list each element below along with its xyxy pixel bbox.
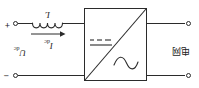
dc-terminal-top-circle bbox=[13, 73, 18, 78]
inductor-label: L bbox=[45, 10, 50, 19]
current-symbol: I bbox=[50, 41, 53, 51]
voltage-label: Udc bbox=[14, 46, 26, 57]
current-subscript: dc bbox=[44, 39, 50, 45]
grid-terminal-top-circle bbox=[186, 73, 191, 78]
grid-label: 电网 bbox=[172, 46, 190, 55]
voltage-symbol: U bbox=[20, 48, 27, 58]
voltage-subscript: dc bbox=[14, 46, 20, 52]
grid-terminal-bottom-circle bbox=[186, 21, 191, 26]
polarity-negative: − bbox=[4, 71, 9, 80]
inductor-icon bbox=[32, 22, 63, 31]
current-label: Idc bbox=[44, 39, 53, 50]
polarity-positive: + bbox=[5, 20, 10, 29]
sine-wave-icon bbox=[111, 55, 139, 71]
dc-wire-bottom-right bbox=[18, 23, 33, 24]
grid-wire-top bbox=[146, 75, 185, 76]
dc-wire-top bbox=[18, 75, 84, 76]
dc-terminal-bottom-circle bbox=[13, 21, 18, 26]
grid-wire-bottom bbox=[146, 23, 185, 24]
circuit-diagram: 电网 L bbox=[0, 0, 199, 88]
dc-wire-bottom-left bbox=[62, 23, 84, 24]
dc-symbol-icon bbox=[89, 37, 113, 47]
current-arrow-icon bbox=[30, 31, 66, 38]
diagram-rotated-canvas: 电网 L bbox=[0, 0, 199, 88]
